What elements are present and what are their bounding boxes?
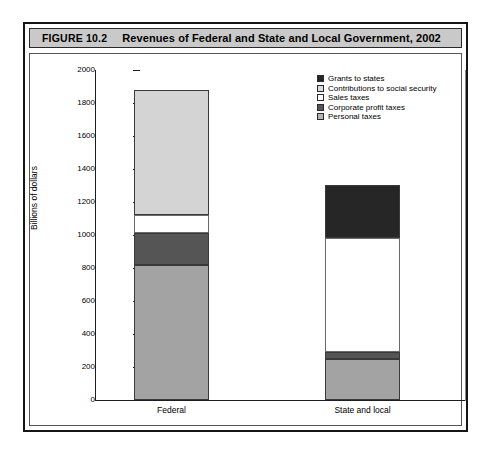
legend-item[interactable]: Contributions to social security: [317, 84, 437, 93]
y-axis-title: Billions of dollars: [29, 138, 39, 258]
y-axis-tick-label: 600: [55, 297, 95, 305]
x-axis-line: [95, 400, 466, 401]
legend-swatch-icon: [317, 85, 324, 92]
plot-right-edge: [465, 70, 466, 401]
y-axis-tick-label: 1800: [55, 99, 95, 107]
y-axis-tick: [133, 400, 140, 401]
legend-item[interactable]: Grants to states: [317, 74, 437, 83]
legend-item-label: Corporate profit taxes: [328, 103, 405, 112]
legend-item[interactable]: Corporate profit taxes: [317, 103, 437, 112]
bar-segment-corporate-profit-taxes[interactable]: [134, 233, 209, 265]
y-axis-tick-label: 2000: [55, 66, 95, 74]
y-axis-tick-label: 1400: [55, 165, 95, 173]
bar-segment-corporate-profit-taxes[interactable]: [325, 352, 400, 359]
legend-item[interactable]: Personal taxes: [317, 112, 437, 121]
x-axis-label: State and local: [285, 405, 440, 415]
y-axis-ticks: 2000180016001400120010008006004002000: [44, 0, 95, 454]
legend-item-label: Personal taxes: [328, 112, 381, 121]
bar-federal[interactable]: [134, 70, 209, 400]
y-axis-tick-label: 200: [55, 363, 95, 371]
legend-item[interactable]: Sales taxes: [317, 93, 437, 102]
bar-segment-sales-taxes[interactable]: [325, 238, 400, 352]
page-title: Revenues of Federal and State and Local …: [122, 32, 441, 44]
legend-item-label: Contributions to social security: [328, 84, 437, 93]
y-axis-tick-label: 800: [55, 264, 95, 272]
legend-swatch-icon: [317, 75, 324, 82]
legend-swatch-icon: [317, 104, 324, 111]
legend-item-label: Sales taxes: [328, 93, 369, 102]
bar-segment-contributions-to-social-security[interactable]: [134, 90, 209, 215]
y-axis-tick-label: 1000: [55, 231, 95, 239]
bar-segment-grants-to-states[interactable]: [325, 185, 400, 239]
legend-swatch-icon: [317, 94, 324, 101]
y-axis-tick-label: 400: [55, 330, 95, 338]
bar-segment-personal-taxes[interactable]: [134, 265, 209, 400]
y-axis-line: [95, 70, 96, 401]
legend-item-label: Grants to states: [328, 74, 384, 83]
x-axis-label: Federal: [94, 405, 249, 415]
bar-segment-sales-taxes[interactable]: [134, 215, 209, 232]
y-axis-tick-label: 1600: [55, 132, 95, 140]
figure-container: FIGURE 10.2 Revenues of Federal and Stat…: [0, 0, 493, 454]
chart-legend: Grants to statesContributions to social …: [317, 74, 437, 122]
legend-swatch-icon: [317, 113, 324, 120]
y-axis-tick-label: 0: [55, 396, 95, 404]
bar-segment-personal-taxes[interactable]: [325, 359, 400, 400]
y-axis-tick-label: 1200: [55, 198, 95, 206]
